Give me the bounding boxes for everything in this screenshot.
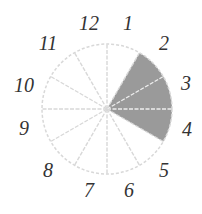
hour-label-6: 6 xyxy=(124,179,134,201)
shaded-wedge xyxy=(107,53,172,142)
sector-divider-line xyxy=(51,109,107,142)
hour-label-5: 5 xyxy=(159,159,169,181)
hour-label-8: 8 xyxy=(43,159,53,181)
hour-label-11: 11 xyxy=(39,32,58,54)
hour-label-3: 3 xyxy=(180,72,191,94)
sector-divider-line xyxy=(75,53,108,109)
sector-divider-line xyxy=(51,77,107,110)
hour-label-12: 12 xyxy=(79,12,99,34)
hour-label-9: 9 xyxy=(19,117,29,139)
hour-label-1: 1 xyxy=(123,12,133,34)
clock-diagram: 12 1 2 3 4 5 6 7 8 9 10 11 xyxy=(0,0,202,214)
hour-label-4: 4 xyxy=(182,118,192,140)
hour-label-10: 10 xyxy=(14,74,34,96)
hour-label-2: 2 xyxy=(159,32,169,54)
sector-divider-line xyxy=(75,109,108,165)
hour-label-7: 7 xyxy=(84,179,95,201)
shaded-sector xyxy=(107,53,172,142)
